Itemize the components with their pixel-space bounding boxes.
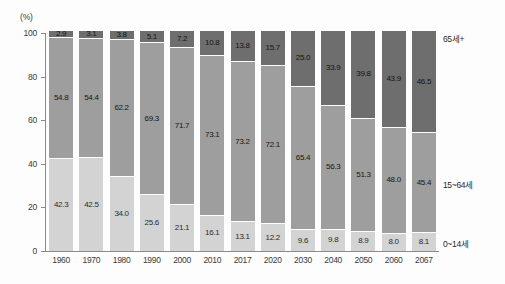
bar-group[interactable]: 16.173.110.8	[200, 33, 224, 251]
bar-segment-0-14[interactable]: 8.9	[351, 232, 375, 251]
x-axis-tick-label: 2030	[286, 255, 320, 265]
bar-segment-0-14[interactable]: 21.1	[170, 205, 194, 251]
x-axis-tick-label: 2020	[256, 255, 290, 265]
bar-segment-65-plus[interactable]: 10.8	[200, 31, 224, 55]
bar-segment-0-14[interactable]: 16.1	[200, 216, 224, 251]
bar-segment-value-label: 73.1	[205, 131, 219, 139]
y-axis-tick-label: 40	[7, 159, 37, 169]
bar-segment-15-64[interactable]: 48.0	[382, 128, 406, 233]
bar-group[interactable]: 8.951.339.8	[351, 33, 375, 251]
bar-group[interactable]: 12.272.115.7	[261, 33, 285, 251]
bar-segment-15-64[interactable]: 54.8	[49, 38, 73, 157]
bar-segment-65-plus[interactable]: 39.8	[351, 31, 375, 118]
bar-group[interactable]: 8.145.446.5	[412, 33, 436, 251]
bar-segment-65-plus[interactable]: 7.2	[170, 31, 194, 47]
bar-segment-value-label: 7.2	[177, 35, 187, 43]
y-axis-tick-label: 60	[7, 115, 37, 125]
bar-segment-value-label: 10.8	[205, 39, 219, 47]
bar-segment-0-14[interactable]: 8.1	[412, 233, 436, 251]
bar-group[interactable]: 34.062.23.8	[110, 33, 134, 251]
bar-segment-0-14[interactable]: 34.0	[110, 177, 134, 251]
bar-segment-value-label: 62.2	[114, 104, 128, 112]
bar-segment-15-64[interactable]: 73.1	[200, 56, 224, 215]
y-axis-tick	[41, 33, 45, 34]
bar-segment-value-label: 71.7	[175, 122, 189, 130]
bar-segment-value-label: 3.1	[86, 30, 96, 38]
x-axis-tick-label: 2060	[377, 255, 411, 265]
bar-segment-15-64[interactable]: 54.4	[79, 39, 103, 158]
bar-segment-65-plus[interactable]: 3.1	[79, 31, 103, 38]
bar-segment-15-64[interactable]: 69.3	[140, 43, 164, 194]
bar-segment-65-plus[interactable]: 25.0	[291, 31, 315, 86]
bar-segment-15-64[interactable]: 45.4	[412, 133, 436, 232]
bar-segment-65-plus[interactable]: 15.7	[261, 31, 285, 65]
bar-segment-15-64[interactable]: 65.4	[291, 87, 315, 230]
bar-segment-value-label: 45.4	[417, 179, 431, 187]
y-axis-tick-label: 100	[7, 28, 37, 38]
bar-segment-value-label: 3.8	[116, 31, 126, 39]
bar-segment-15-64[interactable]: 62.2	[110, 40, 134, 176]
bar-segment-value-label: 73.2	[235, 138, 249, 146]
x-axis-line	[45, 251, 439, 252]
series-label-15-64: 15~64세	[443, 178, 473, 190]
bar-segment-15-64[interactable]: 56.3	[321, 106, 345, 229]
x-axis-tick-label: 2067	[407, 255, 441, 265]
bar-segment-15-64[interactable]: 73.2	[231, 62, 255, 222]
bar-segment-0-14[interactable]: 42.5	[79, 158, 103, 251]
x-axis-tick-label: 1960	[44, 255, 78, 265]
bar-segment-value-label: 5.1	[147, 33, 157, 41]
bar-group[interactable]: 25.669.35.1	[140, 33, 164, 251]
bar-segment-0-14[interactable]: 12.2	[261, 224, 285, 251]
series-label-0-14: 0~14세	[443, 237, 469, 249]
y-axis-tick	[41, 77, 45, 78]
bar-segment-value-label: 2.9	[56, 30, 66, 38]
bar-segment-value-label: 8.1	[419, 238, 429, 246]
bar-segment-65-plus[interactable]: 3.8	[110, 31, 134, 39]
y-axis-tick	[41, 164, 45, 165]
bar-group[interactable]: 8.048.043.9	[382, 33, 406, 251]
bar-segment-65-plus[interactable]: 5.1	[140, 31, 164, 42]
bar-segment-0-14[interactable]: 9.8	[321, 230, 345, 251]
bar-segment-0-14[interactable]: 42.3	[49, 159, 73, 251]
bar-segment-value-label: 34.0	[114, 210, 128, 218]
bar-group[interactable]: 42.554.43.1	[79, 33, 103, 251]
bar-segment-value-label: 42.3	[54, 201, 68, 209]
series-label-65-plus: 65세+	[443, 32, 464, 44]
x-axis-tick-label: 1990	[135, 255, 169, 265]
bar-segment-value-label: 21.1	[175, 224, 189, 232]
x-axis-tick-label: 1970	[74, 255, 108, 265]
x-axis-tick-label: 2010	[195, 255, 229, 265]
population-age-structure-chart: (%) 020406080100 42.354.82.942.554.43.13…	[0, 0, 505, 284]
bar-group[interactable]: 42.354.82.9	[49, 33, 73, 251]
y-axis-tick	[41, 207, 45, 208]
bar-segment-0-14[interactable]: 8.0	[382, 234, 406, 251]
bar-group[interactable]: 9.665.425.0	[291, 33, 315, 251]
bar-group[interactable]: 9.856.333.9	[321, 33, 345, 251]
x-axis-tick-label: 2040	[316, 255, 350, 265]
bar-segment-65-plus[interactable]: 33.9	[321, 31, 345, 105]
bar-segment-65-plus[interactable]: 46.5	[412, 31, 436, 132]
bar-segment-0-14[interactable]: 13.1	[231, 222, 255, 251]
bar-segment-65-plus[interactable]: 2.9	[49, 31, 73, 37]
bar-segment-value-label: 8.0	[389, 238, 399, 246]
bar-segment-15-64[interactable]: 71.7	[170, 48, 194, 204]
bar-segment-value-label: 25.6	[145, 219, 159, 227]
bar-segment-value-label: 15.7	[266, 44, 280, 52]
bar-group[interactable]: 13.173.213.8	[231, 33, 255, 251]
bar-segment-0-14[interactable]: 9.6	[291, 230, 315, 251]
bar-segment-value-label: 9.8	[328, 236, 338, 244]
bar-segment-value-label: 46.5	[417, 78, 431, 86]
bar-segment-15-64[interactable]: 51.3	[351, 119, 375, 231]
bar-group[interactable]: 21.171.77.2	[170, 33, 194, 251]
plot-area: 42.354.82.942.554.43.134.062.23.825.669.…	[46, 33, 439, 251]
bar-segment-value-label: 69.3	[145, 115, 159, 123]
bar-segment-65-plus[interactable]: 43.9	[382, 31, 406, 127]
bar-segment-value-label: 39.8	[356, 70, 370, 78]
bar-segment-15-64[interactable]: 72.1	[261, 66, 285, 223]
bar-segment-value-label: 56.3	[326, 163, 340, 171]
bar-segment-value-label: 48.0	[386, 176, 400, 184]
bar-segment-65-plus[interactable]: 13.8	[231, 31, 255, 61]
bar-segment-value-label: 13.8	[235, 42, 249, 50]
bar-segment-0-14[interactable]: 25.6	[140, 195, 164, 251]
y-axis-tick-label: 80	[7, 72, 37, 82]
